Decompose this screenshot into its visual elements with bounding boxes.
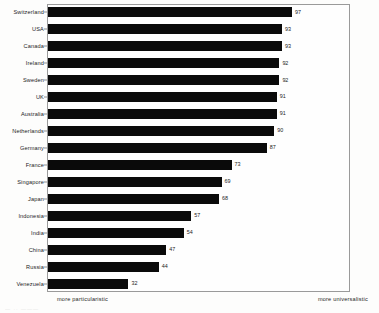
- bar-and-value: 57: [48, 211, 200, 221]
- bar-and-value: 97: [48, 7, 301, 17]
- axis-tick: [44, 97, 47, 98]
- bar-value-label: 68: [222, 196, 228, 201]
- bar-row: China47: [0, 241, 379, 258]
- axis-tick: [44, 198, 47, 199]
- bar-row: Canada93: [0, 38, 379, 55]
- axis-tick: [44, 266, 47, 267]
- axis-tick: [44, 29, 47, 30]
- bar-france: [48, 160, 232, 170]
- axis-tick: [44, 147, 47, 148]
- bar-indonesia: [48, 211, 191, 221]
- bar-value-label: 92: [282, 61, 288, 66]
- bar-value-label: 91: [280, 111, 286, 116]
- category-label-canada: Canada: [24, 43, 45, 49]
- bar-row: Switzerland97: [0, 4, 379, 21]
- bar-and-value: 54: [48, 228, 193, 238]
- category-label-sweden: Sweden: [23, 77, 44, 83]
- bar-row: UK91: [0, 89, 379, 106]
- bar-value-label: 69: [225, 179, 231, 184]
- axis-tick: [44, 164, 47, 165]
- category-label-india: India: [31, 230, 44, 236]
- axis-tick: [44, 46, 47, 47]
- axis-tick: [44, 232, 47, 233]
- axis-tick: [44, 181, 47, 182]
- bar-row: Netherlands90: [0, 123, 379, 140]
- bar-and-value: 44: [48, 262, 168, 272]
- axis-tick: [44, 63, 47, 64]
- bar-ireland: [48, 58, 279, 68]
- bar-and-value: 32: [48, 279, 137, 289]
- category-label-usa: USA: [32, 26, 44, 32]
- bar-row: USA93: [0, 21, 379, 38]
- bar-and-value: 93: [48, 41, 291, 51]
- bar-and-value: 90: [48, 126, 283, 136]
- bar-value-label: 91: [280, 94, 286, 99]
- bar-value-label: 97: [295, 10, 301, 15]
- bar-netherlands: [48, 126, 274, 136]
- cropped-page-artifact: — ·· ———: [5, 306, 39, 313]
- chart-figure: Switzerland97USA93Canada93Ireland92Swede…: [0, 0, 379, 313]
- bar-and-value: 92: [48, 75, 288, 85]
- category-label-germany: Germany: [20, 145, 44, 151]
- category-label-singapore: Singapore: [17, 179, 44, 185]
- bar-row: Japan68: [0, 190, 379, 207]
- category-label-switzerland: Switzerland: [13, 9, 44, 15]
- bar-china: [48, 245, 166, 255]
- category-label-ireland: Ireland: [26, 60, 44, 66]
- bar-row: Singapore69: [0, 173, 379, 190]
- bar-and-value: 69: [48, 177, 231, 187]
- bar-row: India54: [0, 224, 379, 241]
- bar-and-value: 92: [48, 58, 288, 68]
- bar-russia: [48, 262, 159, 272]
- axis-tick: [44, 283, 47, 284]
- bar-and-value: 68: [48, 194, 228, 204]
- bar-canada: [48, 41, 282, 51]
- axis-tick: [44, 12, 47, 13]
- bar-and-value: 91: [48, 92, 286, 102]
- axis-caption-left: more particularistic: [57, 296, 108, 302]
- category-label-japan: Japan: [28, 196, 44, 202]
- bar-singapore: [48, 177, 222, 187]
- category-label-australia: Australia: [21, 111, 44, 117]
- bar-row: Germany87: [0, 140, 379, 157]
- bar-value-label: 32: [131, 281, 137, 286]
- bar-rows-container: Switzerland97USA93Canada93Ireland92Swede…: [0, 4, 379, 292]
- bar-value-label: 92: [282, 78, 288, 83]
- bar-germany: [48, 143, 267, 153]
- bar-venezuela: [48, 279, 128, 289]
- bar-value-label: 57: [194, 213, 200, 218]
- bar-row: Indonesia57: [0, 207, 379, 224]
- category-label-indonesia: Indonesia: [18, 213, 44, 219]
- bar-value-label: 87: [270, 145, 276, 150]
- bar-japan: [48, 194, 219, 204]
- bar-row: Australia91: [0, 106, 379, 123]
- bar-value-label: 47: [169, 247, 175, 252]
- bar-and-value: 73: [48, 160, 241, 170]
- category-label-venezuela: Venezuela: [17, 281, 44, 287]
- axis-captions: more particularistic more universalistic: [0, 296, 379, 310]
- axis-caption-right: more universalistic: [318, 296, 368, 302]
- category-label-russia: Russia: [26, 264, 44, 270]
- axis-tick: [44, 249, 47, 250]
- bar-value-label: 54: [187, 230, 193, 235]
- axis-tick: [44, 215, 47, 216]
- bar-value-label: 44: [162, 264, 168, 269]
- category-label-uk: UK: [36, 94, 44, 100]
- bar-and-value: 91: [48, 109, 286, 119]
- bar-value-label: 93: [285, 27, 291, 32]
- bar-usa: [48, 24, 282, 34]
- bar-sweden: [48, 75, 279, 85]
- bar-uk: [48, 92, 277, 102]
- bar-switzerland: [48, 7, 292, 17]
- axis-tick: [44, 114, 47, 115]
- bar-row: Russia44: [0, 258, 379, 275]
- bar-row: Venezuela32: [0, 275, 379, 292]
- bar-and-value: 47: [48, 245, 175, 255]
- category-label-netherlands: Netherlands: [12, 128, 44, 134]
- category-label-france: France: [26, 162, 44, 168]
- bar-value-label: 73: [235, 162, 241, 167]
- bar-row: Ireland92: [0, 55, 379, 72]
- bar-and-value: 87: [48, 143, 276, 153]
- bar-value-label: 93: [285, 44, 291, 49]
- bar-india: [48, 228, 184, 238]
